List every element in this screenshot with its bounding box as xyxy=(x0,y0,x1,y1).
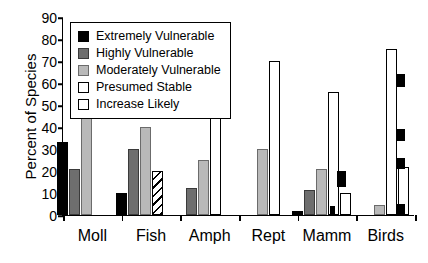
x-axis-tick-mark xyxy=(122,215,124,221)
y-axis-tick-mark xyxy=(58,83,63,85)
bar-fish-presumed-stable xyxy=(152,171,163,215)
marker-birds-stable-low xyxy=(396,158,405,169)
marker-birds-stable-base xyxy=(396,204,405,215)
bar-mamm-highly-vulnerable xyxy=(304,190,315,215)
x-axis-label-mamm: Mamm xyxy=(303,227,352,245)
y-axis-title: Percent of Species xyxy=(22,27,39,207)
marker-birds-stable-mid xyxy=(396,129,405,141)
marker-birds-stable-top xyxy=(396,74,405,87)
legend-swatch-icon xyxy=(78,31,89,42)
x-axis-label-birds: Birds xyxy=(367,227,403,245)
bar-amph-highly-vulnerable xyxy=(186,188,197,216)
legend-swatch-icon xyxy=(78,65,89,76)
bar-fish-highly-vulnerable xyxy=(128,149,139,215)
legend-swatch-icon xyxy=(78,48,89,59)
legend-swatch-icon xyxy=(78,99,89,110)
bar-fish-extremely-vulnerable xyxy=(116,193,127,215)
bar-mamm-presumed-stable xyxy=(328,92,339,215)
legend-item-label: Increase Likely xyxy=(96,98,179,111)
x-axis-tick-mark xyxy=(298,215,300,221)
legend-item: Moderately Vulnerable xyxy=(78,62,221,79)
bar-moll-highly-vulnerable xyxy=(69,169,80,215)
y-axis-tick-mark xyxy=(58,39,63,41)
legend-item-label: Highly Vulnerable xyxy=(96,47,194,60)
x-axis-tick-mark xyxy=(63,215,65,221)
x-axis-tick-mark xyxy=(239,215,241,221)
bar-mamm-moderately-vulnerable xyxy=(316,169,327,215)
bar-fish-moderately-vulnerable xyxy=(140,127,151,215)
bar-birds-moderately-vulnerable xyxy=(374,205,385,215)
bar-mamm-increase-likely xyxy=(340,193,351,215)
bar-rept-presumed-stable xyxy=(269,61,280,215)
x-axis-label-rept: Rept xyxy=(251,227,285,245)
marker-mamm-extreme-base xyxy=(330,206,335,215)
bar-chart: Percent of Species 0102030405060708090Mo… xyxy=(0,0,428,263)
chart-legend: Extremely VulnerableHighly VulnerableMod… xyxy=(70,22,231,119)
legend-item: Increase Likely xyxy=(78,96,221,113)
x-axis-label-amph: Amph xyxy=(189,227,231,245)
y-axis-tick-mark xyxy=(58,17,63,19)
legend-item: Presumed Stable xyxy=(78,79,221,96)
bar-moll-moderately-vulnerable xyxy=(81,114,92,215)
x-axis-tick-mark xyxy=(356,215,358,221)
legend-swatch-icon xyxy=(78,82,89,93)
y-axis-tick-mark xyxy=(58,127,63,129)
x-axis-label-fish: Fish xyxy=(136,227,166,245)
bar-amph-moderately-vulnerable xyxy=(198,160,209,215)
legend-item-label: Presumed Stable xyxy=(96,81,192,94)
x-axis-tick-mark xyxy=(415,215,417,221)
y-axis-tick-mark xyxy=(58,105,63,107)
bar-moll-extremely-vulnerable xyxy=(57,142,68,215)
marker-mamm-stable xyxy=(337,171,346,187)
legend-item: Highly Vulnerable xyxy=(78,45,221,62)
bar-rept-moderately-vulnerable xyxy=(257,149,268,215)
legend-item-label: Moderately Vulnerable xyxy=(96,64,221,77)
legend-item-label: Extremely Vulnerable xyxy=(96,30,214,43)
x-axis-tick-mark xyxy=(180,215,182,221)
legend-item: Extremely Vulnerable xyxy=(78,28,221,45)
y-axis-tick-mark xyxy=(58,61,63,63)
x-axis-label-moll: Moll xyxy=(78,227,107,245)
